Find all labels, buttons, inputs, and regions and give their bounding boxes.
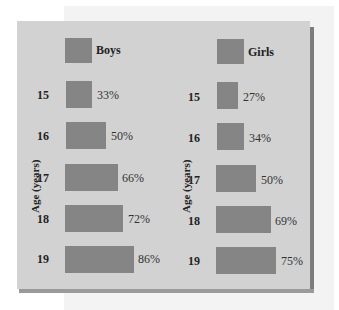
boys-age-label: 18	[27, 212, 49, 227]
panel-shadow-bottom	[19, 289, 314, 293]
girls-age-label: 16	[178, 131, 200, 146]
girls-pct-label: 75%	[281, 254, 303, 269]
boys-y-axis-label: Age (years)	[29, 160, 41, 213]
boys-age-label: 19	[27, 252, 49, 267]
boys-pct-label: 50%	[111, 129, 133, 144]
boys-bar-15	[66, 81, 92, 108]
girls-age-label: 19	[178, 254, 200, 269]
boys-pct-label: 66%	[122, 171, 144, 186]
boys-legend-swatch	[65, 38, 92, 63]
girls-age-label: 18	[178, 214, 200, 229]
girls-pct-label: 34%	[249, 131, 271, 146]
girls-bar-18	[216, 206, 271, 233]
boys-age-label: 15	[27, 88, 49, 103]
girls-age-label: 17	[178, 173, 200, 188]
boys-bar-16	[66, 122, 106, 149]
boys-bar-19	[65, 246, 134, 273]
girls-pct-label: 50%	[261, 173, 283, 188]
boys-bar-18	[65, 205, 123, 232]
girls-age-label: 15	[178, 90, 200, 105]
boys-age-label: 17	[27, 171, 49, 186]
boys-age-label: 16	[27, 129, 49, 144]
girls-bar-15	[217, 82, 238, 109]
girls-bar-17	[216, 165, 256, 192]
boys-legend-label: Boys	[96, 43, 121, 58]
girls-bar-16	[217, 123, 244, 150]
boys-pct-label: 86%	[138, 252, 160, 267]
girls-legend-swatch	[217, 39, 244, 64]
boys-pct-label: 33%	[97, 88, 119, 103]
girls-bar-19	[216, 247, 276, 274]
boys-bar-17	[65, 164, 118, 191]
girls-legend-label: Girls	[248, 45, 274, 60]
boys-pct-label: 72%	[128, 212, 150, 227]
girls-pct-label: 27%	[243, 90, 265, 105]
panel-shadow-right	[310, 27, 314, 293]
girls-pct-label: 69%	[275, 214, 297, 229]
